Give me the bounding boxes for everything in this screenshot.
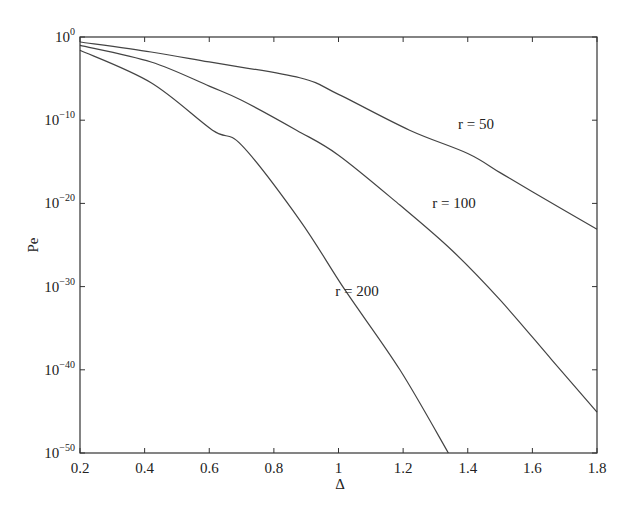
x-tick-label: 0.6 (200, 460, 219, 476)
x-tick-label: 1.8 (588, 460, 607, 476)
x-tick-label: 1.6 (523, 460, 542, 476)
y-tick-label: 10−30 (44, 276, 75, 295)
y-tick-label: 100 (55, 26, 75, 45)
x-tick-label: 1.2 (394, 460, 413, 476)
x-tick-label: 1.4 (458, 460, 477, 476)
x-tick-label: 1 (335, 460, 343, 476)
y-tick-label: 10−40 (44, 359, 75, 378)
curve-label: r = 100 (432, 195, 475, 211)
y-axis-label: Pe (25, 237, 41, 252)
curve-label: r = 50 (458, 116, 494, 132)
curve-r50 (80, 42, 597, 229)
curves (80, 42, 597, 453)
x-tick-label: 0.4 (135, 460, 154, 476)
y-axis-ticks: 10010−1010−2010−3010−4010−50 (44, 26, 597, 461)
curve-label: r = 200 (335, 283, 378, 299)
plot-area-frame (80, 37, 597, 453)
x-axis-label: Δ (335, 476, 345, 492)
curve-r100 (80, 45, 597, 412)
curve-r200 (80, 50, 448, 453)
x-axis-ticks: 0.20.40.60.811.21.41.61.8 (71, 37, 607, 476)
y-tick-label: 10−10 (44, 109, 75, 128)
x-tick-label: 0.8 (265, 460, 284, 476)
chart: 0.20.40.60.811.21.41.61.8 10010−1010−201… (0, 0, 638, 512)
y-tick-label: 10−50 (44, 442, 75, 461)
curve-annotations: r = 50r = 100r = 200 (335, 116, 494, 298)
x-tick-label: 0.2 (71, 460, 90, 476)
y-tick-label: 10−20 (44, 192, 75, 211)
